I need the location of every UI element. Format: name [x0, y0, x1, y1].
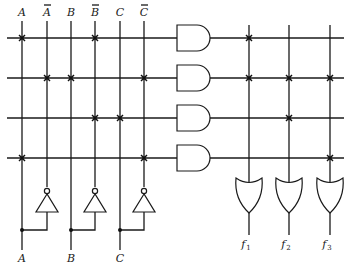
input-label: A [17, 6, 26, 19]
and-gate-2-icon [177, 65, 210, 91]
input-column-A-bar: A [42, 5, 51, 187]
output-column-f2: f2 [276, 25, 302, 252]
inverter-B [69, 188, 106, 232]
junction-dot [69, 228, 73, 232]
input-columns: AABBCC [17, 5, 149, 250]
input-column-B-bar: B [90, 5, 99, 187]
inverter-C [118, 188, 155, 232]
pla-diagram: AABBCCABCf1f2f3 [0, 0, 351, 268]
input-label: C [140, 6, 149, 19]
output-columns: f1f2f3 [236, 25, 343, 252]
output-column-f1: f1 [236, 25, 262, 252]
or-gate-2-icon [276, 178, 302, 213]
inverters [20, 188, 155, 232]
junction-dot [118, 228, 122, 232]
product-lines [7, 38, 344, 158]
output-label: f1 [240, 238, 251, 252]
inverter-triangle-icon [133, 194, 155, 212]
input-column-A: A [17, 6, 26, 250]
and-gate-4-icon [177, 145, 210, 171]
bottom-input-label-A: A [17, 252, 26, 265]
inverter-bubble-icon [141, 188, 146, 193]
output-subscript: 3 [327, 244, 331, 252]
bottom-labels: ABC [17, 252, 125, 265]
input-column-C-bar: C [140, 5, 149, 187]
or-gate-1-icon [236, 178, 262, 213]
inverter-triangle-icon [84, 194, 106, 212]
inverter-bubble-icon [44, 188, 49, 193]
output-column-f3: f3 [317, 25, 343, 252]
junction-dot [20, 228, 24, 232]
output-subscript: 2 [286, 244, 290, 252]
output-subscript: 1 [246, 244, 250, 252]
output-label: f3 [321, 238, 332, 252]
and-gate-1-icon [177, 25, 210, 51]
input-label: C [116, 6, 125, 19]
input-column-B: B [66, 6, 75, 250]
inverter-feed-wire [120, 212, 144, 230]
input-column-C: C [116, 6, 125, 250]
connection-marks [19, 35, 333, 161]
and-gates [177, 25, 210, 171]
inverter-feed-wire [22, 212, 47, 230]
inverter-feed-wire [71, 212, 95, 230]
input-label: A [42, 6, 51, 19]
input-label: B [90, 6, 99, 19]
inverter-bubble-icon [92, 188, 97, 193]
and-gate-3-icon [177, 105, 210, 131]
input-label: B [66, 6, 75, 19]
inverter-A [20, 188, 58, 232]
bottom-input-label-B: B [66, 252, 75, 265]
bottom-input-label-C: C [116, 252, 125, 265]
inverter-triangle-icon [36, 194, 58, 212]
or-gate-3-icon [317, 178, 343, 213]
output-label: f2 [280, 238, 291, 252]
